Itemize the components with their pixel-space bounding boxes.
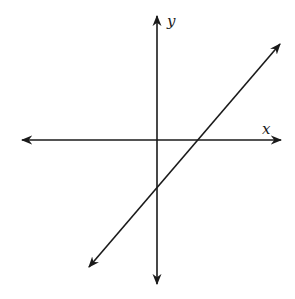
plotted-line xyxy=(89,44,280,267)
coordinate-plane: y x xyxy=(0,0,295,299)
y-axis-label: y xyxy=(166,12,176,30)
x-axis-label: x xyxy=(262,120,271,138)
graph-svg: y x xyxy=(0,0,295,299)
